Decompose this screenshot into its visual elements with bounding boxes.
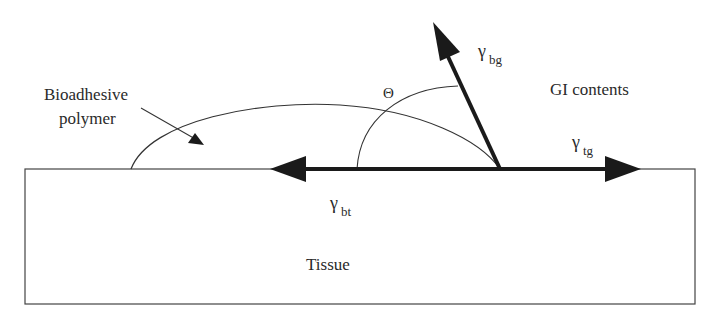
- svg-text:γ: γ: [477, 41, 486, 61]
- svg-text:γ: γ: [571, 132, 580, 152]
- svg-text:bt: bt: [341, 204, 352, 219]
- gamma-tg-label: γ tg: [571, 132, 594, 158]
- gamma-bt-label: γ bt: [329, 193, 352, 219]
- gi-contents-label: GI contents: [550, 80, 629, 99]
- gamma-bt-arrowhead: [270, 156, 306, 182]
- contact-angle-diagram: Bioadhesive polymer GI contents Tissue Θ…: [0, 0, 712, 326]
- svg-text:bg: bg: [489, 52, 503, 67]
- svg-text:tg: tg: [583, 143, 594, 158]
- theta-label: Θ: [383, 85, 394, 101]
- polymer-droplet: [131, 104, 500, 169]
- gamma-tg-arrowhead: [605, 156, 641, 182]
- polymer-label-line2: polymer: [59, 109, 116, 128]
- polymer-label-line1: Bioadhesive: [44, 85, 128, 104]
- svg-text:γ: γ: [329, 193, 338, 213]
- gamma-bg-arrowhead: [433, 22, 460, 61]
- tissue-label: Tissue: [306, 255, 350, 274]
- gamma-bg-label: γ bg: [477, 41, 503, 67]
- polymer-pointer-arrowhead: [188, 133, 204, 145]
- tissue-block: [25, 169, 695, 304]
